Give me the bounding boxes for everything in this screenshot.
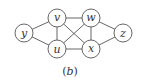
node-v: v [48, 9, 66, 27]
node-z: z [114, 24, 132, 42]
node-label-z: z [119, 27, 126, 40]
node-w: w [82, 9, 100, 27]
node-x: x [82, 40, 100, 58]
node-y: y [15, 24, 33, 42]
node-label-y: y [20, 27, 28, 40]
node-label-u: u [53, 43, 60, 56]
figure-caption: (b) [62, 65, 78, 78]
node-label-x: x [88, 42, 95, 55]
node-label-w: w [86, 11, 96, 24]
graph-diagram: y v u w x z (b) [0, 0, 141, 83]
edges [24, 18, 123, 49]
node-u: u [48, 40, 66, 58]
node-label-v: v [54, 11, 61, 24]
